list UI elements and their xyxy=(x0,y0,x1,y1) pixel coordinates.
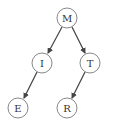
edge-m-t xyxy=(72,27,85,53)
edge-i-e xyxy=(24,72,37,98)
node-r: R xyxy=(57,98,77,118)
node-label-m: M xyxy=(62,13,72,24)
binary-tree-diagram: M I T E R xyxy=(0,0,113,130)
node-label-t: T xyxy=(87,58,94,69)
node-e: E xyxy=(8,98,28,118)
node-t: T xyxy=(80,53,100,73)
node-i: I xyxy=(32,53,52,73)
edge-m-i xyxy=(48,27,62,53)
node-m: M xyxy=(57,8,77,28)
edge-t-r xyxy=(72,72,85,98)
node-label-e: E xyxy=(14,103,21,114)
node-label-i: I xyxy=(40,58,44,69)
node-label-r: R xyxy=(63,103,71,114)
